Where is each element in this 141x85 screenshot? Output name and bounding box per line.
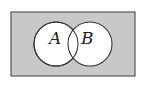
set-a-label: A bbox=[47, 28, 61, 48]
set-b-label: B bbox=[80, 28, 94, 48]
venn-diagram: A B bbox=[0, 0, 141, 85]
